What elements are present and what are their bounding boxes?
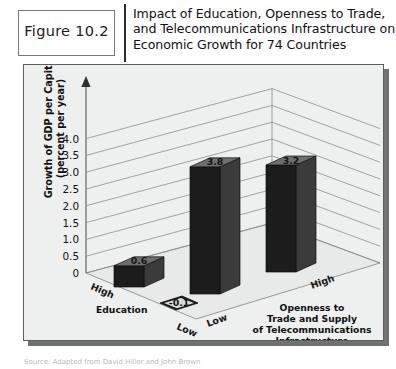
- bar-value-label: 3.8: [207, 156, 224, 167]
- bar-edu-high-open-high[interactable]: 3.8: [190, 156, 240, 294]
- figure-number-label: Figure 10.2: [19, 23, 114, 39]
- openness-caption-line-1: Openness to: [280, 302, 345, 313]
- chart-title-line-1: Impact of Education, Openness to Trade,: [133, 6, 391, 21]
- y-tick-label: 2.5: [62, 183, 79, 195]
- bar-value-label: 3.2: [283, 155, 300, 166]
- y-axis-line: [81, 76, 90, 273]
- y-tick-label: 1.0: [62, 233, 79, 245]
- source-caption: Source: Adapted from David Hiller and Jo…: [24, 358, 384, 366]
- y-axis-tick-labels: 4.0 3.5 3.0 2.5 2.0 1.5 1.0 0.5 0: [62, 133, 79, 279]
- chart-panel: Growth of GDP per Capita (percent per ye…: [23, 64, 384, 341]
- education-caption: Education: [96, 304, 147, 315]
- education-low-label: Low: [175, 321, 199, 339]
- openness-caption-line-4: Infrastructure: [276, 335, 349, 341]
- y-tick-label: 2.0: [62, 200, 79, 212]
- y-tick-label: 4.0: [62, 133, 79, 145]
- chart-title: Impact of Education, Openness to Trade, …: [133, 6, 391, 52]
- bar-edu-low-open-high[interactable]: 3.2: [266, 155, 316, 272]
- chart-title-line-2: and Telecommunications Infrastructure on: [133, 21, 391, 36]
- bar-value-label: -0.1: [169, 297, 190, 308]
- openness-caption-line-2: Trade and Supply: [267, 313, 357, 324]
- title-divider-rule: [124, 4, 126, 62]
- figure-page: Figure 10.2 Impact of Education, Opennes…: [0, 0, 396, 369]
- openness-caption-line-3: of Telecommunications: [253, 324, 372, 335]
- y-tick-label: 0.5: [62, 250, 79, 262]
- y-tick-label: 3.5: [62, 149, 79, 161]
- figure-number-box: Figure 10.2: [18, 10, 115, 56]
- y-tick-label: 0: [72, 267, 79, 279]
- y-tick-label: 3.0: [62, 166, 79, 178]
- y-tick-label: 1.5: [62, 217, 79, 229]
- bar-value-label: 0.6: [131, 255, 148, 266]
- chart-title-line-3: Economic Growth for 74 Countries: [133, 37, 391, 52]
- chart-3d-scene: 4.0 3.5 3.0 2.5 2.0 1.5 1.0 0.5 0 -0.1: [24, 65, 384, 341]
